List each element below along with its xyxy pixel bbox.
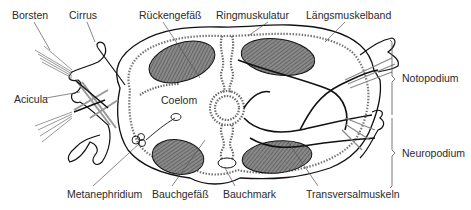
label-acicula: Acicula bbox=[14, 94, 48, 105]
label-ringmuskulatur: Ringmuskulatur bbox=[216, 10, 289, 21]
label-metanephridium: Metanephridium bbox=[67, 189, 142, 200]
label-neuropodium: Neuropodium bbox=[402, 148, 465, 159]
neuropodium-right bbox=[360, 110, 384, 158]
label-laengsmuskelband: Längsmuskelband bbox=[306, 10, 391, 21]
notopodium-right bbox=[360, 38, 398, 72]
ventral-muscle-right bbox=[241, 137, 314, 176]
label-bauchmark: Bauchmark bbox=[223, 189, 276, 200]
notopodium-bracket bbox=[390, 40, 395, 115]
label-cirrus: Cirrus bbox=[69, 10, 97, 21]
ventral-nerve-cord bbox=[218, 158, 236, 168]
chaetae-bundle-lower-left bbox=[35, 112, 72, 142]
dorsal-muscle-left bbox=[144, 33, 220, 90]
notopodium-chaetae-right bbox=[345, 58, 395, 88]
label-bauchgefaess: Bauchgefäß bbox=[152, 189, 209, 200]
label-coelom: Coelom bbox=[161, 95, 197, 106]
polychaete-cross-section-diagram bbox=[0, 0, 471, 210]
blood-vessels bbox=[238, 60, 378, 147]
label-transversalmuskeln: Transversalmuskeln bbox=[306, 189, 400, 200]
label-notopodium: Notopodium bbox=[402, 73, 459, 84]
label-rueckengefaess: Rückengefäß bbox=[139, 10, 201, 21]
label-borsten: Borsten bbox=[12, 10, 48, 21]
neuropodium-bracket bbox=[390, 118, 395, 188]
chaetae-bundle-upper-left bbox=[35, 46, 72, 78]
